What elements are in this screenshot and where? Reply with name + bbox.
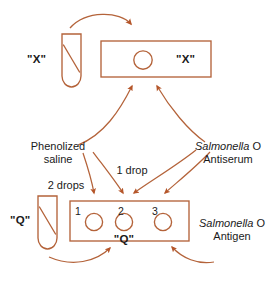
top-slide-label: "X" bbox=[176, 53, 195, 66]
well-number-1: 1 bbox=[75, 205, 81, 218]
phenolized-saline-line1: Phenolized bbox=[31, 140, 85, 153]
phenolized-saline-line2: saline bbox=[31, 153, 85, 166]
arrow-saline-to-top-slide bbox=[78, 86, 132, 145]
antigen-rest: O bbox=[253, 217, 265, 229]
top-slide-well bbox=[134, 51, 152, 69]
bottom-slide-well-1 bbox=[85, 213, 102, 230]
arrow-tube-q-to-bottom-slide bbox=[49, 248, 110, 262]
antiserum-line2: Antiserum bbox=[195, 153, 261, 166]
bottom-slide-label: "Q" bbox=[114, 233, 134, 246]
antiserum-rest: O bbox=[249, 140, 261, 152]
bottom-tube-q bbox=[38, 196, 57, 249]
bottom-tube-label: "Q" bbox=[10, 214, 30, 227]
antiserum-line1: Salmonella O bbox=[195, 140, 261, 153]
agglutination-test-diagram: "X" "X" Phenolized saline Salmonella O A… bbox=[0, 0, 280, 281]
antiserum-genus: Salmonella bbox=[195, 140, 249, 152]
arrow-antiserum-to-top-slide bbox=[157, 86, 205, 142]
one-drop-label: 1 drop bbox=[116, 164, 147, 177]
salmonella-o-antigen-label: Salmonella O Antigen bbox=[199, 217, 265, 242]
arrow-antigen-to-bottom-slide bbox=[172, 247, 214, 263]
antigen-genus: Salmonella bbox=[199, 217, 253, 229]
arrow-tube-x-to-slide-x bbox=[70, 14, 131, 28]
antigen-line2: Antigen bbox=[199, 230, 265, 243]
two-drops-label: 2 drops bbox=[48, 179, 85, 192]
phenolized-saline-label: Phenolized saline bbox=[31, 140, 85, 165]
well-number-2: 2 bbox=[118, 205, 124, 218]
top-tube-label: "X" bbox=[27, 53, 46, 66]
antigen-line1: Salmonella O bbox=[199, 217, 265, 230]
top-tube-x bbox=[62, 34, 81, 87]
well-number-3: 3 bbox=[152, 205, 158, 218]
salmonella-o-antiserum-label: Salmonella O Antiserum bbox=[195, 140, 261, 165]
